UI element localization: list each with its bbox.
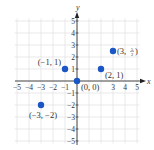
point-label: (3,	[117, 46, 126, 56]
data-point	[110, 48, 116, 54]
coordinate-plane: x y −5−4−3−2−1345 54321−1−2−3−4−5 (−1, 1…	[0, 0, 154, 150]
y-tick-label: 5	[71, 17, 75, 26]
y-tick-label: −5	[67, 137, 75, 146]
x-tick-label: 3	[111, 83, 115, 92]
fraction-denominator: 2	[131, 52, 133, 57]
y-axis-label: y	[75, 3, 80, 12]
point-label: (−3, −2)	[29, 110, 57, 120]
y-tick-label: 3	[71, 41, 75, 50]
x-tick-label: −4	[25, 83, 33, 92]
point-label: (−1, 1)	[38, 57, 61, 67]
y-tick-label: −2	[67, 101, 75, 110]
axes: x y	[15, 3, 151, 145]
y-tick-label: −1	[67, 89, 75, 98]
y-tick-label: −4	[67, 125, 75, 134]
point-label: (2, 1)	[105, 70, 124, 80]
x-tick-label: −2	[49, 83, 57, 92]
y-tick-label: 2	[71, 53, 75, 62]
data-point	[38, 102, 44, 108]
x-tick-labels: −5−4−3−2−1345	[13, 83, 139, 92]
y-tick-label: 1	[71, 65, 75, 74]
x-tick-label: 5	[135, 83, 139, 92]
fraction-numerator: 5	[131, 47, 134, 52]
data-point	[62, 66, 68, 72]
x-tick-label: −3	[37, 83, 45, 92]
x-axis-arrow-icon	[140, 79, 146, 83]
point-label: (0, 0)	[81, 82, 100, 92]
data-point	[74, 78, 80, 84]
x-tick-label: −5	[13, 83, 21, 92]
x-axis-label: x	[146, 77, 151, 86]
point-label-end: )	[135, 46, 138, 56]
y-tick-label: −3	[67, 113, 75, 122]
data-point	[98, 66, 104, 72]
x-tick-label: 4	[123, 83, 127, 92]
y-axis-arrow-icon	[75, 12, 79, 18]
y-tick-label: 4	[71, 29, 75, 38]
